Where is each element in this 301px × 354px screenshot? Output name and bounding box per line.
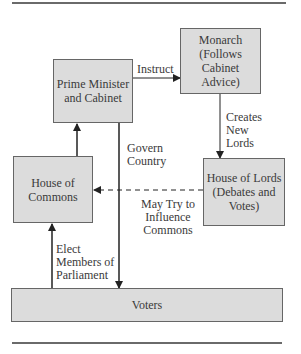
instruct-label: Instruct — [137, 63, 174, 76]
voters-label: Voters — [132, 298, 162, 312]
monarch-node: Monarch (Follows Cabinet Advice) — [180, 28, 261, 94]
govern-country-label: Govern Country — [127, 142, 166, 168]
voters-node: Voters — [11, 288, 283, 322]
elect-members-label: Elect Members of Parliament — [56, 243, 114, 282]
creates-new-lords-label: Creates New Lords — [226, 111, 262, 150]
prime-minister-node: Prime Minister and Cabinet — [53, 59, 133, 123]
house-of-lords-label: House of Lords (Debates and Votes) — [206, 171, 282, 213]
prime-minister-label: Prime Minister and Cabinet — [56, 77, 130, 105]
house-of-lords-node: House of Lords (Debates and Votes) — [203, 158, 285, 226]
monarch-label: Monarch (Follows Cabinet Advice) — [195, 33, 246, 89]
bottom-rule — [12, 342, 282, 344]
house-of-commons-label: House of Commons — [28, 176, 78, 204]
may-try-to-influence-label: May Try to Influence Commons — [136, 198, 200, 237]
house-of-commons-node: House of Commons — [13, 156, 93, 223]
